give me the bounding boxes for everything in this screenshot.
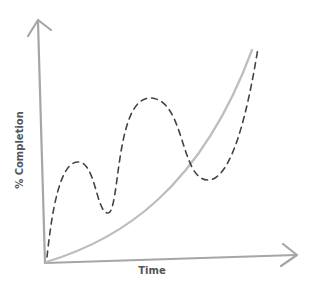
y-axis-label: % Completion — [14, 111, 25, 189]
x-axis — [45, 255, 296, 263]
diagram-canvas — [0, 0, 310, 295]
actual-progress-curve — [47, 48, 258, 257]
x-axis-label: Time — [138, 265, 165, 276]
y-axis — [38, 22, 45, 263]
expected-progress-curve — [46, 50, 252, 262]
y-axis-arrowhead-icon — [28, 20, 51, 36]
